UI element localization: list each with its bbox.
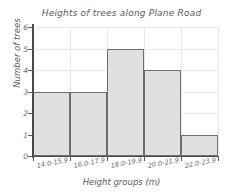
histogram-bar: [107, 49, 144, 157]
y-axis-title: Number of trees: [12, 0, 22, 108]
x-tick-mark: [107, 156, 108, 161]
y-tick-mark: [28, 113, 34, 114]
x-tick-label: 14.0-15.9: [36, 156, 69, 170]
x-tick-label: 16.0-17.9: [73, 156, 106, 170]
x-tick-label: 22.0-23.9: [184, 156, 217, 170]
x-axis-title: Height groups (m): [0, 177, 243, 187]
histogram-chart: Heights of trees along Plane Road 012345…: [0, 0, 243, 193]
y-tick-mark: [28, 27, 34, 28]
y-tick-mark: [28, 92, 34, 93]
x-tick-mark: [181, 156, 182, 161]
y-tick-mark: [28, 49, 34, 50]
x-tick-mark: [33, 156, 34, 161]
histogram-bar: [33, 92, 70, 157]
y-tick-mark: [28, 135, 34, 136]
y-tick-mark: [28, 70, 34, 71]
y-tick-label: 2: [8, 109, 28, 118]
x-tick-mark: [218, 156, 219, 161]
histogram-bar: [70, 92, 107, 157]
y-tick-label: 1: [8, 130, 28, 139]
chart-title: Heights of trees along Plane Road: [0, 8, 243, 18]
x-tick-label: 20.0-21.9: [147, 156, 180, 170]
plot-area: [33, 27, 218, 156]
gridline-horizontal: [33, 27, 218, 28]
x-tick-mark: [70, 156, 71, 161]
y-tick-label: 0: [8, 152, 28, 161]
x-tick-mark: [144, 156, 145, 161]
x-tick-label: 18.0-19.9: [110, 156, 143, 170]
histogram-bar: [181, 135, 218, 157]
histogram-bar: [144, 70, 181, 156]
gridline-vertical: [218, 27, 219, 156]
